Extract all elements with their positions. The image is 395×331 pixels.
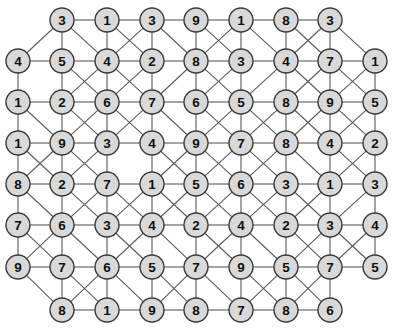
node-circle[interactable] [6,131,30,155]
node-circle[interactable] [363,49,387,73]
node-circle[interactable] [274,255,298,279]
graph-node[interactable]: 3 [318,8,342,32]
node-circle[interactable] [140,90,164,114]
graph-node[interactable]: 7 [318,255,342,279]
graph-node[interactable]: 2 [140,49,164,73]
graph-node[interactable]: 8 [50,298,74,322]
node-circle[interactable] [274,90,298,114]
graph-node[interactable]: 5 [229,90,253,114]
graph-node[interactable]: 6 [184,90,208,114]
graph-node[interactable]: 8 [274,90,298,114]
graph-node[interactable]: 4 [318,131,342,155]
graph-node[interactable]: 1 [95,298,119,322]
graph-node[interactable]: 9 [6,255,30,279]
graph-node[interactable]: 2 [50,172,74,196]
node-circle[interactable] [274,131,298,155]
node-circle[interactable] [184,8,208,32]
node-circle[interactable] [318,49,342,73]
node-circle[interactable] [6,255,30,279]
graph-node[interactable]: 1 [363,49,387,73]
node-circle[interactable] [363,213,387,237]
graph-node[interactable]: 5 [274,255,298,279]
graph-node[interactable]: 2 [363,131,387,155]
node-circle[interactable] [184,131,208,155]
graph-node[interactable]: 1 [95,8,119,32]
node-circle[interactable] [318,131,342,155]
graph-node[interactable]: 3 [318,213,342,237]
graph-node[interactable]: 7 [140,90,164,114]
node-circle[interactable] [95,49,119,73]
graph-node[interactable]: 9 [184,131,208,155]
graph-node[interactable]: 9 [140,298,164,322]
node-circle[interactable] [318,8,342,32]
graph-node[interactable]: 4 [363,213,387,237]
graph-node[interactable]: 4 [6,49,30,73]
graph-node[interactable]: 6 [318,298,342,322]
node-circle[interactable] [140,172,164,196]
graph-node[interactable]: 7 [95,172,119,196]
node-circle[interactable] [95,8,119,32]
graph-node[interactable]: 1 [229,8,253,32]
node-circle[interactable] [140,255,164,279]
node-circle[interactable] [274,298,298,322]
node-circle[interactable] [184,213,208,237]
graph-node[interactable]: 6 [229,172,253,196]
node-circle[interactable] [229,8,253,32]
node-circle[interactable] [184,298,208,322]
graph-node[interactable]: 9 [50,131,74,155]
graph-node[interactable]: 9 [184,8,208,32]
node-circle[interactable] [50,49,74,73]
node-circle[interactable] [229,90,253,114]
node-circle[interactable] [95,131,119,155]
node-circle[interactable] [274,172,298,196]
graph-node[interactable]: 5 [50,49,74,73]
node-circle[interactable] [95,298,119,322]
node-circle[interactable] [50,90,74,114]
node-circle[interactable] [184,172,208,196]
graph-node[interactable]: 7 [318,49,342,73]
graph-node[interactable]: 1 [318,172,342,196]
node-circle[interactable] [6,172,30,196]
graph-node[interactable]: 8 [184,49,208,73]
graph-node[interactable]: 3 [50,8,74,32]
node-circle[interactable] [140,213,164,237]
node-circle[interactable] [363,255,387,279]
node-circle[interactable] [140,49,164,73]
node-circle[interactable] [50,298,74,322]
graph-node[interactable]: 3 [95,213,119,237]
node-circle[interactable] [184,90,208,114]
graph-node[interactable]: 3 [95,131,119,155]
graph-node[interactable]: 8 [274,131,298,155]
graph-node[interactable]: 4 [140,213,164,237]
node-circle[interactable] [318,255,342,279]
node-circle[interactable] [229,255,253,279]
node-circle[interactable] [318,213,342,237]
graph-node[interactable]: 5 [140,255,164,279]
graph-node[interactable]: 7 [184,255,208,279]
node-circle[interactable] [140,131,164,155]
graph-node[interactable]: 5 [184,172,208,196]
node-circle[interactable] [6,213,30,237]
graph-node[interactable]: 3 [274,172,298,196]
node-circle[interactable] [140,8,164,32]
node-circle[interactable] [274,8,298,32]
graph-node[interactable]: 1 [6,90,30,114]
graph-node[interactable]: 8 [274,298,298,322]
graph-node[interactable]: 3 [229,49,253,73]
node-circle[interactable] [6,90,30,114]
node-circle[interactable] [318,172,342,196]
node-circle[interactable] [50,172,74,196]
graph-node[interactable]: 2 [184,213,208,237]
node-circle[interactable] [184,255,208,279]
node-circle[interactable] [274,49,298,73]
node-circle[interactable] [274,213,298,237]
node-circle[interactable] [229,172,253,196]
graph-node[interactable]: 8 [184,298,208,322]
graph-node[interactable]: 6 [95,90,119,114]
graph-node[interactable]: 7 [6,213,30,237]
graph-node[interactable]: 1 [140,172,164,196]
graph-node[interactable]: 9 [229,255,253,279]
graph-node[interactable]: 7 [50,255,74,279]
graph-node[interactable]: 4 [140,131,164,155]
node-circle[interactable] [6,49,30,73]
